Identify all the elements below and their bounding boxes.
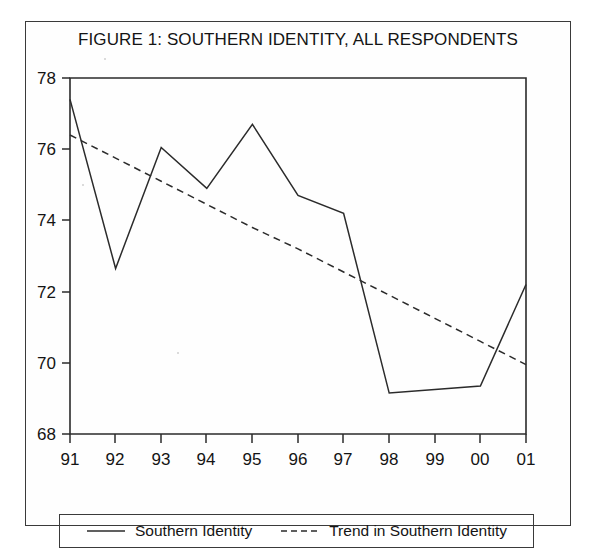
x-tick-label: 96 [289,450,308,469]
legend-label: Southern Identity [135,522,252,540]
figure-frame: FIGURE 1: SOUTHERN IDENTITY, ALL RESPOND… [25,21,571,526]
dashed-line-icon [280,526,320,536]
x-tick-label: 98 [380,450,399,469]
legend-label: Trend in Southern Identity [329,522,507,540]
x-axis-ticks [70,434,526,443]
x-axis-tick-labels: 91 92 93 94 95 96 97 98 99 00 01 [61,450,536,469]
legend-entry-southern-identity[interactable]: Southern Identity [86,522,252,540]
x-tick-label: 99 [426,450,445,469]
x-tick-label: 94 [197,450,216,469]
solid-line-icon [86,526,126,536]
y-tick-label: 72 [37,283,56,302]
y-axis-tick-labels: 78 76 74 72 70 68 [37,69,56,444]
x-tick-label: 00 [471,450,490,469]
chart-legend: Southern Identity Trend in Southern Iden… [59,514,534,548]
y-tick-label: 70 [37,354,56,373]
x-tick-label: 91 [61,450,80,469]
trend-line-series [70,135,526,365]
legend-entry-trend[interactable]: Trend in Southern Identity [280,522,507,540]
y-axis-ticks [62,78,70,434]
x-tick-label: 93 [152,450,171,469]
x-tick-label: 01 [517,450,536,469]
chart-plot-area: 78 76 74 72 70 68 91 92 93 94 95 [26,22,572,527]
x-tick-label: 97 [334,450,353,469]
y-tick-label: 74 [37,211,56,230]
southern-identity-series [70,99,526,393]
axis-frame [70,78,526,434]
x-tick-label: 95 [243,450,262,469]
y-tick-label: 76 [37,140,56,159]
y-tick-label: 78 [37,69,56,88]
y-tick-label: 68 [37,425,56,444]
x-tick-label: 92 [106,450,125,469]
